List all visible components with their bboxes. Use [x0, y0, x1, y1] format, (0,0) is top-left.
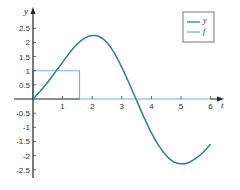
y-tick-label: -1: [23, 123, 31, 132]
legend-box: [183, 12, 214, 42]
y-tick-label: -0.5: [16, 109, 30, 118]
x-tick-label: 5: [179, 102, 184, 111]
y-axis-arrow-icon: [31, 7, 36, 14]
y-tick-label: 2.5: [19, 24, 31, 33]
y-axis-label: y: [23, 6, 28, 16]
legend-label-y: y: [202, 16, 207, 25]
x-axis-label: t: [221, 100, 224, 110]
x-tick-label: 1: [60, 102, 65, 111]
y-tick-label: -1.5: [16, 137, 30, 146]
series-y-line: [33, 36, 211, 164]
y-tick-label: -2: [23, 152, 31, 161]
x-tick-label: 3: [120, 102, 125, 111]
y-tick-label: -2.5: [16, 166, 30, 175]
x-tick-label: 2: [90, 102, 95, 111]
f-polyline: [33, 71, 211, 99]
y-tick-label: 2: [26, 38, 31, 47]
y-curve: [33, 36, 211, 164]
y-tick-label: 1.5: [19, 53, 31, 62]
y-tick-label: 1: [26, 67, 31, 76]
y-tick-label: 0.5: [19, 81, 31, 90]
x-tick-label: 6: [208, 102, 213, 111]
series-f-line: [33, 71, 211, 99]
x-tick-label: 4: [149, 102, 154, 111]
legend: y f: [183, 12, 214, 42]
chart-canvas: 1234562.521.510.5-0.5-1-1.5-2-2.5 y t y …: [0, 0, 240, 190]
